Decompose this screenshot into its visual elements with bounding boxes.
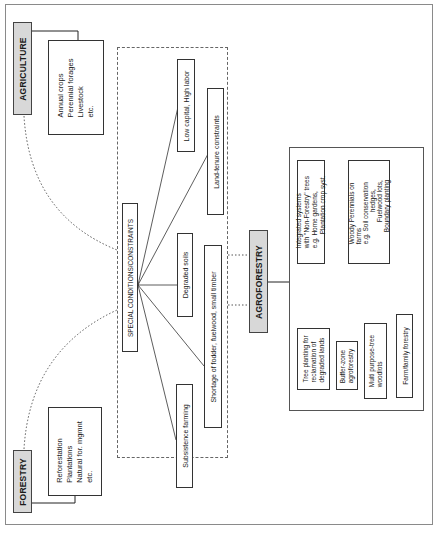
agriculture-item: Livestock — [76, 58, 86, 117]
system-line: woodlots — [376, 335, 384, 387]
forestry-box: FORESTRY — [13, 450, 32, 513]
agroforestry-system-text: Multi purpose-tree woodlots — [368, 335, 384, 387]
constraint-label: Subsistence farming — [180, 404, 189, 467]
agriculture-box: AGRICULTURE — [13, 22, 32, 115]
constraint-box: Low capital, High labor — [177, 59, 195, 152]
forestry-list-box: Reforestation Plantations Natural for. m… — [48, 407, 102, 496]
constraint-label: Low capital, High labor — [182, 70, 191, 141]
forestry-item: Natural for. mgmnt — [75, 421, 85, 483]
system-line: Buffer-zone — [339, 348, 347, 383]
constraint-label: Degraded soils — [181, 252, 190, 299]
forestry-item: Plantations — [65, 421, 75, 483]
agriculture-list: Annual crops Perennial forages Livestock… — [56, 58, 96, 117]
agroforestry-system-box: Integrated systems with "Non-Forestry" t… — [297, 160, 325, 264]
agroforestry-system-text: Woody Perennials on farms e.g. Soil cons… — [348, 180, 390, 244]
agroforestry-system-box: Tree planting for reclamation of degrade… — [297, 328, 330, 390]
system-line: hedges, — [369, 180, 376, 244]
agroforestry-system-text: Integrated systems with "Non-Forestry" t… — [295, 176, 327, 249]
system-line: agroforestry — [347, 348, 355, 383]
agroforestry-system-box: Multi purpose-tree woodlots — [364, 323, 387, 399]
forestry-item: etc. — [85, 421, 95, 483]
forestry-item: Reforestation — [55, 421, 65, 483]
system-line: farms — [355, 180, 362, 244]
system-line: Tree planting for — [302, 335, 310, 382]
system-line: Boundary planting — [383, 180, 390, 244]
system-line: Woody Perennials on — [348, 180, 355, 244]
forestry-list: Reforestation Plantations Natural for. m… — [55, 421, 95, 483]
constraint-box: Degraded soils — [177, 233, 193, 317]
system-line: e.g. Soil conservation — [362, 180, 369, 244]
agroforestry-system-text: Tree planting for reclamation of degrade… — [302, 335, 326, 382]
agriculture-list-box: Annual crops Perennial forages Livestock… — [48, 40, 104, 135]
constraint-box: Shortage of fodder, fuelwood, small timb… — [204, 245, 222, 428]
system-line: Fuelwood lots, — [376, 180, 383, 244]
agroforestry-system-text: Buffer-zone agroforestry — [339, 348, 355, 383]
agroforestry-title: AGROFORESTRY — [254, 245, 263, 319]
constraint-box: Subsistence farming — [176, 384, 193, 488]
agroforestry-system-box: Woody Perennials on farms e.g. Soil cons… — [348, 160, 390, 264]
agroforestry-system-box: Farm/family forestry — [396, 314, 413, 398]
agroforestry-system-box: Buffer-zone agroforestry — [336, 341, 358, 390]
agriculture-item: Perennial forages — [66, 58, 76, 117]
agroforestry-box: AGROFORESTRY — [249, 230, 268, 333]
system-line: with "Non-Forestry" trees — [303, 176, 311, 249]
agriculture-item: Annual crops — [56, 58, 66, 117]
system-line: Integrated systems — [295, 176, 303, 249]
forestry-title: FORESTRY — [18, 458, 27, 506]
system-line: Plantation crop syst. — [319, 176, 327, 249]
constraint-box: Land-tenure constraints — [207, 88, 224, 215]
special-conditions-title: SPECIAL CONDITIONS/CONSTRAINTS — [126, 218, 135, 336]
system-line: Farm/family forestry — [400, 327, 409, 384]
system-line: e.g. Home gardens, — [311, 176, 319, 249]
system-line: reclamation of — [310, 335, 318, 382]
special-conditions-box: SPECIAL CONDITIONS/CONSTRAINTS — [122, 203, 138, 352]
agriculture-title: AGRICULTURE — [18, 37, 27, 100]
system-line: degraded lands — [318, 335, 326, 382]
system-line: Multi purpose-tree — [368, 335, 376, 387]
constraint-label: Shortage of fodder, fuelwood, small timb… — [209, 271, 218, 402]
constraint-label: Land-tenure constraints — [211, 115, 220, 189]
agriculture-item: etc. — [86, 58, 96, 117]
